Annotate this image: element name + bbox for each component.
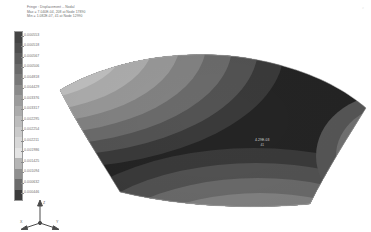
colorbar-label-text: 0.004818: [24, 75, 39, 79]
annotation-node: 41: [255, 143, 270, 147]
colorbar-label: 0.001094: [24, 169, 39, 176]
colorbar-tick: [21, 78, 24, 79]
colorbar-label: 0.000446: [24, 190, 39, 197]
colorbar-label-text: 0.003317: [24, 106, 39, 110]
colorbar-label: 0.000567: [24, 54, 39, 61]
colorbar-tick: [21, 193, 24, 194]
colorbar-label-text: 0.002295: [24, 117, 39, 121]
axis-label-z: Z: [43, 201, 46, 205]
colorbar-label: 0.000632: [24, 180, 39, 187]
fea-contour-viewport: Fringe : Displacement -- Nodal Max = 7.0…: [0, 0, 371, 232]
colorbar-tick: [21, 120, 24, 121]
colorbar-tick: [21, 99, 24, 100]
fringe-header: Fringe : Displacement -- Nodal Max = 7.0…: [27, 5, 85, 19]
colorbar-tick: [21, 36, 24, 37]
peak-annotation: 4.29E-03 41: [255, 138, 270, 147]
colorbar-label: 0.002295: [24, 117, 39, 124]
colorbar-label: 0.003376: [24, 96, 39, 103]
colorbar-swatch: [15, 53, 22, 64]
colorbar-swatch: [15, 158, 22, 169]
colorbar-label: 0.004429: [24, 85, 39, 92]
contour-surface-svg: [58, 28, 368, 210]
colorbar-label: 0.001986: [24, 148, 39, 155]
colorbar-tick: [21, 141, 24, 142]
colorbar-swatch: [15, 148, 22, 159]
colorbar-tick: [21, 172, 24, 173]
surface-plot[interactable]: 4.29E-03 41: [58, 28, 368, 210]
axis-label-y: Y: [56, 220, 59, 224]
colorbar-label-text: 0.000553: [24, 33, 39, 37]
colorbar-swatch: [15, 137, 22, 148]
colorbar-tick: [21, 109, 24, 110]
colorbar-swatch: [15, 179, 22, 190]
color-legend: 0.0005530.0005180.0005670.0005060.004818…: [13, 29, 61, 201]
colorbar-label-text: 0.004429: [24, 85, 39, 89]
colorbar-tick: [21, 162, 24, 163]
colorbar-tick: [21, 67, 24, 68]
colorbar-label: 0.000506: [24, 64, 39, 71]
colorbar-swatch: [15, 95, 22, 106]
colorbar-label-text: 0.000446: [24, 190, 39, 194]
colorbar-swatch: [15, 64, 22, 75]
colorbar-tick: [21, 130, 24, 131]
colorbar-label-text: 0.001094: [24, 169, 39, 173]
colorbar-label-text: 0.000632: [24, 180, 39, 184]
colorbar-swatch: [15, 169, 22, 180]
colorbar-swatch: [15, 106, 22, 117]
colorbar-label: 0.000553: [24, 33, 39, 40]
colorbar-label-text: 0.000506: [24, 64, 39, 68]
corner-watermark: z: [362, 6, 364, 10]
colorbar-labels: 0.0005530.0005180.0005670.0005060.004818…: [24, 29, 61, 201]
colorbar-swatch: [15, 85, 22, 96]
colorbar-swatch: [15, 116, 22, 127]
colorbar-swatch: [15, 43, 22, 54]
colorbar-label: 0.002211: [24, 138, 39, 145]
colorbar-label-text: 0.002254: [24, 127, 39, 131]
colorbar-label-text: 0.002211: [24, 138, 39, 142]
colorbar-swatch: [15, 74, 22, 85]
colorbar-label-text: 0.000518: [24, 43, 39, 47]
annotation-value: 4.29E-03: [255, 138, 270, 142]
colorbar-swatch: [15, 32, 22, 43]
fringe-min: Min = 1.082E-07, 41 at Node 12990: [27, 14, 85, 19]
axis-triad: Z X Y: [18, 198, 62, 230]
colorbar-label: 0.002254: [24, 127, 39, 134]
colorbar-tick: [21, 151, 24, 152]
colorbar-tick: [21, 183, 24, 184]
colorbar-label: 0.003317: [24, 106, 39, 113]
colorbar-label: 0.000518: [24, 43, 39, 50]
colorbar-label-text: 0.000567: [24, 54, 39, 58]
colorbar-label: 0.001425: [24, 159, 39, 166]
colorbar-label-text: 0.003376: [24, 96, 39, 100]
colorbar-swatch: [15, 127, 22, 138]
axis-label-x: X: [20, 220, 23, 224]
colorbar-label-text: 0.001986: [24, 148, 39, 152]
colorbar-tick: [21, 57, 24, 58]
colorbar-tick: [21, 46, 24, 47]
axis-triad-svg: Z X Y: [18, 198, 62, 230]
colorbar-tick: [21, 88, 24, 89]
colorbar-label-text: 0.001425: [24, 159, 39, 163]
colorbar-label: 0.004818: [24, 75, 39, 82]
